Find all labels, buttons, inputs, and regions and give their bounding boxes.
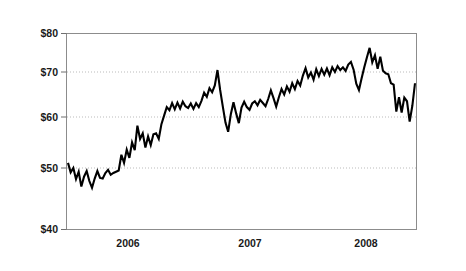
y-axis-ticks <box>61 34 67 230</box>
xtick-label-2007: 2007 <box>238 237 262 249</box>
chart-figure: $80 $70 $60 $50 $40 2006 2007 2008 <box>0 0 466 271</box>
plot-area <box>67 34 417 230</box>
ytick-label-50: $50 <box>40 162 58 174</box>
ytick-label-60: $60 <box>40 111 58 123</box>
stock-price-line-chart: $80 $70 $60 $50 $40 2006 2007 2008 <box>0 0 466 271</box>
ytick-label-70: $70 <box>40 66 58 78</box>
xtick-label-2008: 2008 <box>354 237 378 249</box>
ytick-label-40: $40 <box>40 223 58 235</box>
ytick-label-80: $80 <box>40 27 58 39</box>
y-axis-labels: $80 $70 $60 $50 $40 <box>40 27 58 235</box>
xtick-label-2006: 2006 <box>116 237 140 249</box>
x-axis-labels: 2006 2007 2008 <box>116 237 378 249</box>
